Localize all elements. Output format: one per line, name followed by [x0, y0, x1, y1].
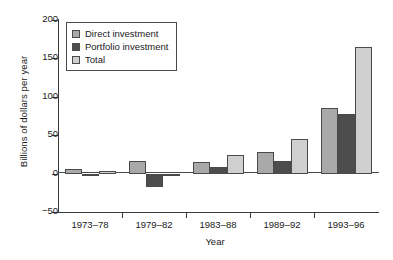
x-tick-label: 1979–82 [122, 219, 186, 230]
y-tick-label: 0 [12, 167, 58, 178]
bar-2-2 [146, 174, 163, 188]
bar-3-3 [227, 155, 244, 173]
bar-5-1 [321, 108, 338, 174]
bar-2-3 [163, 174, 180, 176]
x-tick-mark [186, 212, 187, 218]
x-axis-title: Year [48, 236, 382, 247]
legend-swatch-icon [72, 43, 80, 51]
y-tick-label: 200 [12, 13, 58, 24]
bar-3-1 [193, 162, 210, 174]
x-tick-mark [314, 212, 315, 218]
bar-5-2 [338, 114, 355, 174]
legend-label: Portfolio investment [85, 40, 168, 53]
x-tick-label: 1973–78 [58, 219, 122, 230]
x-axis-line [58, 212, 379, 213]
y-tick-label: 50 [12, 128, 58, 139]
bar-1-2 [82, 174, 99, 176]
legend-item: Direct investment [72, 27, 168, 40]
legend: Direct investmentPortfolio investmentTot… [66, 22, 177, 71]
y-tick-label: 150 [12, 51, 58, 62]
x-tick-label: 1983–88 [186, 219, 250, 230]
legend-label: Total [85, 53, 105, 66]
x-tick-label: 1993–96 [314, 219, 378, 230]
bar-4-1 [257, 152, 274, 174]
bar-1-1 [65, 169, 82, 174]
legend-item: Total [72, 53, 168, 66]
x-tick-label: 1989–92 [250, 219, 314, 230]
x-tick-mark [250, 212, 251, 218]
bar-4-2 [274, 161, 291, 174]
y-tick-label: 100 [12, 90, 58, 101]
investment-bar-chart: Billions of dollars per year Year 200150… [0, 0, 393, 260]
bar-3-2 [210, 167, 227, 174]
bar-1-3 [99, 171, 116, 173]
legend-swatch-icon [72, 56, 80, 64]
y-tick-label: −50 [12, 205, 58, 216]
bar-2-1 [129, 161, 146, 174]
x-tick-mark [122, 212, 123, 218]
legend-label: Direct investment [85, 27, 158, 40]
bar-4-3 [291, 139, 308, 174]
legend-swatch-icon [72, 30, 80, 38]
bar-5-3 [355, 47, 372, 174]
legend-item: Portfolio investment [72, 40, 168, 53]
y-axis-ticks: 200150100500−50 [0, 0, 58, 260]
